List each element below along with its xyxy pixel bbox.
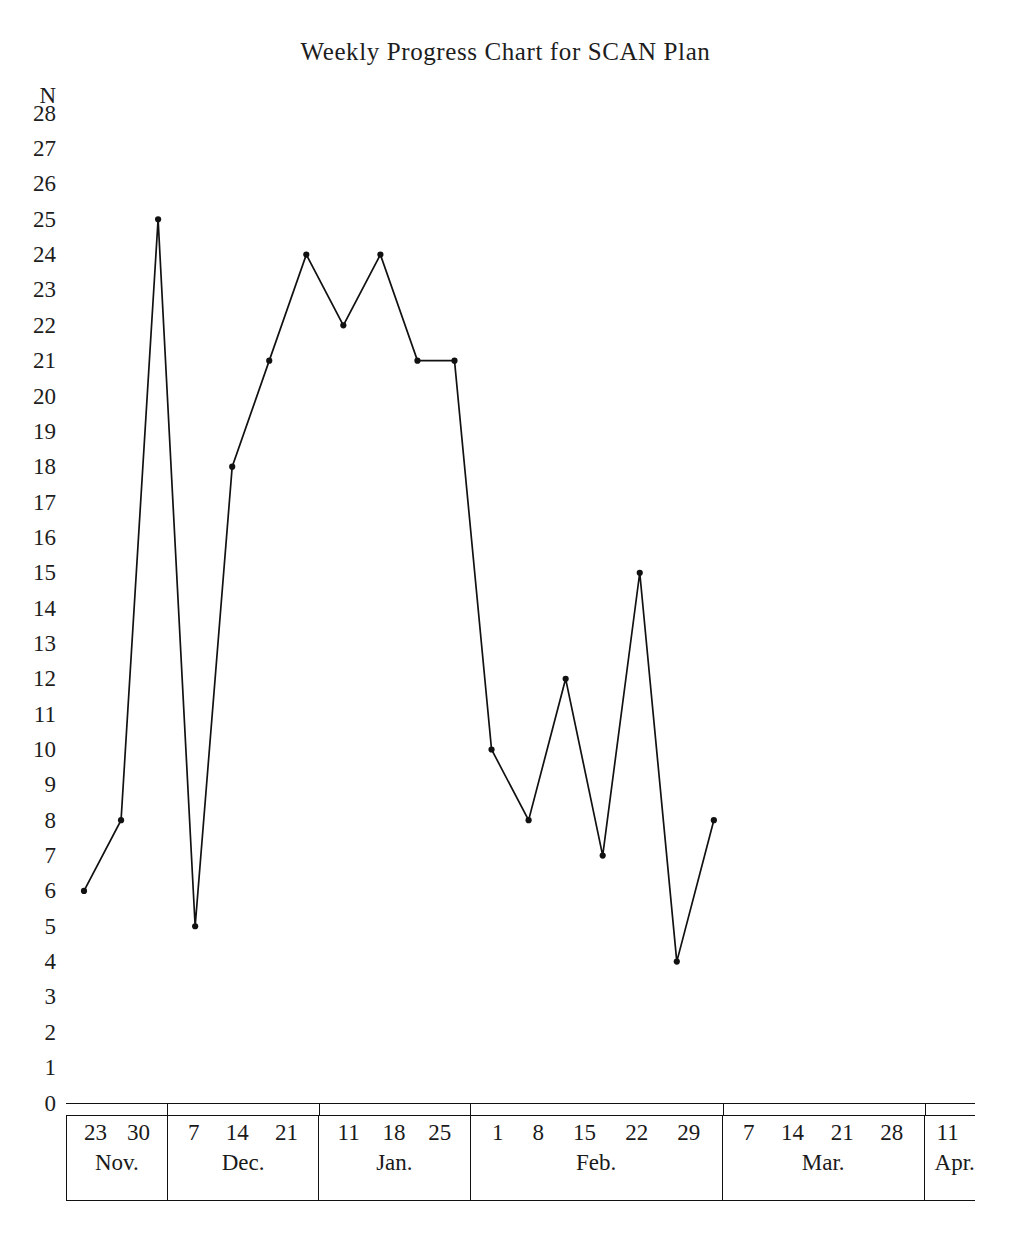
x-axis-day-label: 11	[937, 1120, 959, 1146]
y-tick-label: 9	[45, 773, 57, 796]
line-series-svg: 23 Nov.: 630 Nov.: 87 Dec.: 2514 Dec.: 5…	[66, 100, 975, 1105]
data-point-marker: 14 Dec.: 5	[192, 923, 198, 929]
data-point-marker: 11 Apr.: 8	[711, 817, 717, 823]
data-point-marker: 23 Nov.: 6	[81, 888, 87, 894]
x-axis-month-group: 2330Nov.	[67, 1116, 168, 1200]
x-axis-day-label: 25	[428, 1120, 451, 1146]
y-tick-label: 4	[45, 950, 57, 973]
y-tick-label: 13	[33, 632, 56, 655]
x-axis-month-group: 71421Dec.	[168, 1116, 319, 1200]
x-axis-month-label: Feb.	[471, 1150, 722, 1176]
x-axis-day-row: 18152229	[471, 1120, 722, 1146]
x-axis-day-label: 1	[492, 1120, 504, 1146]
x-axis-group-tick	[470, 1104, 471, 1116]
x-axis-month-group: 11Apr.	[925, 1116, 975, 1200]
x-axis-day-label: 7	[743, 1120, 755, 1146]
x-axis-day-label: 22	[625, 1120, 648, 1146]
data-point-marker: 22 Feb.: 10	[488, 746, 494, 752]
x-axis-day-label: 14	[226, 1120, 249, 1146]
x-axis-day-row: 2330	[67, 1120, 167, 1146]
data-point-marker: 29 Feb.: 8	[526, 817, 532, 823]
y-tick-label: 5	[45, 915, 57, 938]
data-line	[84, 219, 714, 961]
x-axis-day-label: 8	[533, 1120, 545, 1146]
x-axis-day-row: 71421	[168, 1120, 318, 1146]
y-tick-label: 6	[45, 879, 57, 902]
y-tick-label: 11	[34, 703, 56, 726]
x-axis-day-label: 29	[677, 1120, 700, 1146]
x-axis-day-label: 18	[382, 1120, 405, 1146]
y-tick-label: 28	[33, 102, 56, 125]
x-axis-day-label: 7	[188, 1120, 200, 1146]
chart-title: Weekly Progress Chart for SCAN Plan	[0, 38, 1011, 66]
x-axis-month-group: 111825Jan.	[319, 1116, 470, 1200]
x-axis-group-tick	[167, 1104, 168, 1116]
x-axis-day-label: 21	[275, 1120, 298, 1146]
y-tick-label: 21	[33, 349, 56, 372]
plot-area: 23 Nov.: 630 Nov.: 87 Dec.: 2514 Dec.: 5…	[66, 100, 975, 1105]
y-tick-label: 14	[33, 597, 56, 620]
y-tick-label: 16	[33, 526, 56, 549]
x-axis-day-label: 23	[84, 1120, 107, 1146]
y-tick-label: 1	[45, 1056, 57, 1079]
x-axis-month-label: Apr.	[925, 1150, 975, 1176]
x-axis-day-label: 30	[127, 1120, 150, 1146]
y-axis: N 28272625242322212019181716151413121110…	[0, 0, 66, 1253]
x-axis-baseline	[66, 1103, 975, 1104]
x-axis-month-table: 2330Nov.71421Dec.111825Jan.18152229Feb.7…	[66, 1115, 975, 1201]
x-axis-day-label: 21	[831, 1120, 854, 1146]
x-axis-month-group: 18152229Feb.	[471, 1116, 723, 1200]
x-axis-day-row: 11	[925, 1120, 975, 1146]
y-tick-label: 19	[33, 420, 56, 443]
data-point-marker: 15 Feb.: 21	[451, 358, 457, 364]
x-axis-day-label: 11	[338, 1120, 360, 1146]
y-tick-label: 15	[33, 561, 56, 584]
data-point-marker: 7 Dec.: 25	[155, 216, 161, 222]
x-axis-day-label: 15	[573, 1120, 596, 1146]
x-axis-day-label: 28	[880, 1120, 903, 1146]
x-axis-day-row: 7142128	[723, 1120, 924, 1146]
data-point-marker: 25 Jan.: 22	[340, 322, 346, 328]
y-tick-label: 2	[45, 1021, 57, 1044]
y-tick-label: 12	[33, 667, 56, 690]
data-point-marker: 21 Mar.: 15	[637, 570, 643, 576]
data-point-marker: 7 Mar.: 12	[563, 676, 569, 682]
y-tick-label: 0	[45, 1092, 57, 1115]
x-axis-group-tick	[925, 1104, 926, 1116]
x-axis-month-label: Dec.	[168, 1150, 318, 1176]
x-axis-month-label: Nov.	[67, 1150, 167, 1176]
x-axis-month-label: Jan.	[319, 1150, 469, 1176]
x-axis-group-tick	[723, 1104, 724, 1116]
y-tick-label: 7	[45, 844, 57, 867]
x-axis-day-row: 111825	[319, 1120, 469, 1146]
y-tick-label: 26	[33, 172, 56, 195]
y-tick-label: 25	[33, 208, 56, 231]
x-axis-month-group: 7142128Mar.	[723, 1116, 925, 1200]
y-tick-label: 23	[33, 278, 56, 301]
y-tick-label: 3	[45, 985, 57, 1008]
data-point-marker: 21 Dec.: 18	[229, 464, 235, 470]
x-axis-month-label: Mar.	[723, 1150, 924, 1176]
x-axis-day-label: 14	[781, 1120, 804, 1146]
data-point-marker: 11 Jan.: 21	[266, 358, 272, 364]
y-tick-label: 10	[33, 738, 56, 761]
data-point-marker: 8 Feb.: 21	[414, 358, 420, 364]
data-point-marker: 30 Nov.: 8	[118, 817, 124, 823]
y-tick-label: 8	[45, 809, 57, 832]
data-point-marker: 28 Mar.: 4	[674, 959, 680, 965]
data-point-marker: 18 Jan.: 24	[303, 252, 309, 258]
y-tick-label: 20	[33, 385, 56, 408]
weekly-progress-chart: Weekly Progress Chart for SCAN Plan N 28…	[0, 0, 1011, 1253]
y-tick-label: 24	[33, 243, 56, 266]
y-tick-label: 22	[33, 314, 56, 337]
data-point-marker: 1 Feb.: 24	[377, 252, 383, 258]
x-axis-group-tick	[319, 1104, 320, 1116]
y-tick-label: 27	[33, 137, 56, 160]
y-tick-label: 18	[33, 455, 56, 478]
data-point-marker: 14 Mar.: 7	[600, 852, 606, 858]
y-tick-label: 17	[33, 491, 56, 514]
